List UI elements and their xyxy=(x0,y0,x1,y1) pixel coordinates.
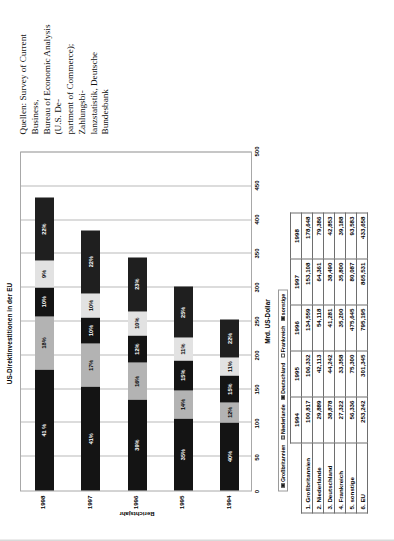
bar-segment-label: 40% xyxy=(227,450,233,461)
table-cell-1995: 33,358 xyxy=(335,351,346,397)
chart-and-table-block: US-Direktinvestitionen in der EU Bericht… xyxy=(4,143,390,535)
legend-swatch xyxy=(281,483,285,487)
table-cell-1997: 35,800 xyxy=(335,259,346,305)
bar-segment-sonstige: 25% xyxy=(174,286,193,337)
bar-segment-frankreich: 11% xyxy=(220,357,239,375)
chart-title: US-Direktinvestitionen in der EU xyxy=(6,183,13,483)
table-cell-1995: 106,332 xyxy=(302,351,313,397)
table-row: 2. Niederlande29,88942,11354,11864,36179… xyxy=(313,213,324,513)
table-row: 3. Deutschland38,87844,24241,28138,49042… xyxy=(324,213,335,513)
table-cell-1996: 54,118 xyxy=(313,305,324,351)
bar-segment-label: 16% xyxy=(134,375,140,386)
bar-segment-frankreich: 11% xyxy=(174,337,193,360)
x-axis-ticks: 050100150200250300350400450500 xyxy=(254,151,264,491)
table-cell-1995: 301,345 xyxy=(357,351,368,397)
table-row-label: 2. Niederlande xyxy=(313,443,324,513)
table-cell-1997: 153,108 xyxy=(302,259,313,305)
legend-item-sonstige: sonstige xyxy=(280,293,286,320)
x-tick-450: 450 xyxy=(254,180,260,190)
bar-segment-label: 23% xyxy=(134,278,140,289)
table-row-label: 6. EU xyxy=(357,443,368,513)
table-cell-1997: 38,490 xyxy=(324,259,335,305)
bar-segment-sonstige: 22% xyxy=(35,197,54,260)
table-cell-1994: 29,889 xyxy=(313,397,324,443)
table-header-row: 19941995199619971998 xyxy=(291,213,302,513)
bar-segment-label: 10% xyxy=(134,317,140,328)
chart-legend: GroßbritannienNiederlandeDeutschlandFran… xyxy=(278,289,288,491)
table-cell-1996: 795,195 xyxy=(357,305,368,351)
table-cell-1997: 64,361 xyxy=(313,259,324,305)
table-col-header-1998: 1998 xyxy=(291,213,302,259)
table-cell-1997: 80,087 xyxy=(346,259,357,305)
table-cell-1994: 100,817 xyxy=(302,397,313,443)
x-tick-100: 100 xyxy=(254,418,260,428)
bar-segment-deutschland: 10% xyxy=(81,317,100,343)
bar-segment-deutschland: 15% xyxy=(174,360,193,390)
legend-item-deutschland: Deutschland xyxy=(280,362,286,399)
table-cell-1998: 39,188 xyxy=(335,213,346,259)
source-line: Bureau of Economic Analysis (U.S. De- xyxy=(42,6,66,134)
legend-label: Frankreich xyxy=(280,325,286,352)
x-tick-500: 500 xyxy=(254,146,260,156)
legend-swatch xyxy=(281,435,285,439)
bar-segment-label: 22% xyxy=(88,256,94,267)
table-cell-1998: 178,648 xyxy=(302,213,313,259)
table-cell-1998: 42,853 xyxy=(324,213,335,259)
bar-segment-deutschland: 12% xyxy=(128,335,147,363)
table-cell-1994: 38,878 xyxy=(324,397,335,443)
bar-segment-label: 9% xyxy=(41,269,47,277)
bar-segment-label: 11% xyxy=(180,343,186,354)
x-tick-50: 50 xyxy=(254,454,260,461)
bar-segment-label: 22% xyxy=(41,223,47,234)
table-row-label: 4. Frankreich xyxy=(335,443,346,513)
table-cell-1998: 433,658 xyxy=(357,213,368,259)
legend-item-großbritannien: Großbritannien xyxy=(280,444,286,487)
table-cell-1994: 56,336 xyxy=(346,397,357,443)
table-cell-1996: 41,281 xyxy=(324,305,335,351)
table-cell-1998: 93,583 xyxy=(346,213,357,259)
table-col-header-1994: 1994 xyxy=(291,397,302,443)
table-row: 1. Großbritannien100,817106,332134,55915… xyxy=(302,213,313,513)
bar-segment-label: 22% xyxy=(227,332,233,343)
x-tick-350: 350 xyxy=(254,248,260,258)
bar-1994: 40%12%15%11%22% xyxy=(220,152,239,490)
x-tick-0: 0 xyxy=(254,489,260,492)
bar-segment-label: 25% xyxy=(180,306,186,317)
bar-segment-großbritannien: 41 % xyxy=(35,369,54,490)
bar-segment-großbritannien: 40% xyxy=(220,422,239,490)
plot-canvas: 41 %18%10%9%22%41%17%10%10%22%39%16%12%1… xyxy=(20,151,252,491)
legend-label: Niederlande xyxy=(280,404,286,434)
bar-segment-label: 12% xyxy=(134,343,140,354)
chart-plot-area: Berichtsjahr 41 %18%10%9%22%41%17%10%10%… xyxy=(16,143,278,535)
category-label-1997: 1997 xyxy=(86,495,93,535)
bar-segment-label: 18% xyxy=(41,337,47,348)
bar-segment-niederlande: 14% xyxy=(174,390,193,418)
x-tick-400: 400 xyxy=(254,214,260,224)
bar-segment-frankreich: 10% xyxy=(81,293,100,317)
legend-swatch xyxy=(281,316,285,320)
table-row-label: 1. Großbritannien xyxy=(302,443,313,513)
bar-segment-label: 41 % xyxy=(41,423,47,436)
bar-segment-niederlande: 18% xyxy=(35,316,54,370)
legend-label: Deutschland xyxy=(280,362,286,393)
table-row: 6. EU253,242301,345795,195865,531433,658 xyxy=(357,213,368,513)
table-row: 5. sonstige56,33675,300475,64580,08793,5… xyxy=(346,213,357,513)
x-tick-250: 250 xyxy=(254,316,260,326)
scanned-page-frame: US-Direktinvestitionen in der EU Bericht… xyxy=(0,0,394,541)
bar-segment-sonstige: 22% xyxy=(81,230,100,293)
bar-segment-großbritannien: 39% xyxy=(128,399,147,490)
bar-1997: 41%17%10%10%22% xyxy=(81,152,100,490)
table-cell-1995: 44,242 xyxy=(324,351,335,397)
table-row: 4. Frankreich27,32233,35835,20035,80039,… xyxy=(335,213,346,513)
bar-1996: 39%16%12%10%23% xyxy=(128,152,147,490)
x-tick-200: 200 xyxy=(254,350,260,360)
category-label-1996: 1996 xyxy=(132,495,139,535)
bar-segment-label: 15% xyxy=(180,369,186,380)
category-label-1998: 1998 xyxy=(39,495,46,535)
table-col-header-1995: 1995 xyxy=(291,351,302,397)
legend-item-frankreich: Frankreich xyxy=(280,325,286,357)
bar-segment-sonstige: 22% xyxy=(220,319,239,357)
bar-segment-deutschland: 15% xyxy=(220,375,239,401)
data-table: 199419951996199719981. Großbritannien100… xyxy=(290,212,368,513)
x-axis-unit-label: Mrd. US-Dollar xyxy=(264,151,271,491)
